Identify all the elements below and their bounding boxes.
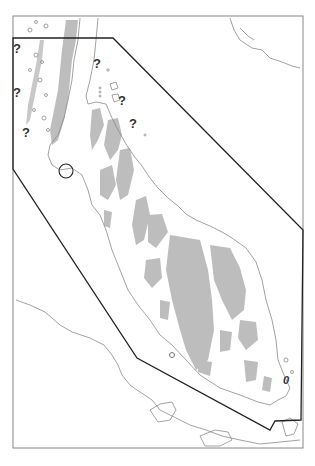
map-canvas: [0, 0, 315, 466]
question-mark-6: ?: [22, 126, 30, 139]
location-circle-marker: [59, 164, 73, 178]
highland-areas: [26, 20, 272, 392]
question-mark-2: ?: [93, 57, 101, 70]
question-mark-4: ?: [118, 94, 126, 107]
question-mark-5: ?: [129, 117, 137, 130]
island-label: 0: [283, 375, 289, 386]
question-mark-1: ?: [13, 42, 21, 55]
question-mark-3: ?: [13, 86, 21, 99]
